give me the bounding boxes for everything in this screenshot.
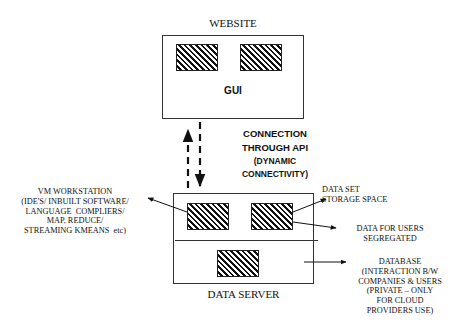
connectors-layer	[0, 0, 461, 327]
data-set-arrow	[293, 199, 326, 212]
diagram-canvas: WEBSITE GUI CONNECTION THROUGH API (DYNA…	[0, 0, 461, 327]
vm-workstation-arrow	[148, 198, 187, 212]
data-for-users-arrow	[293, 222, 336, 228]
